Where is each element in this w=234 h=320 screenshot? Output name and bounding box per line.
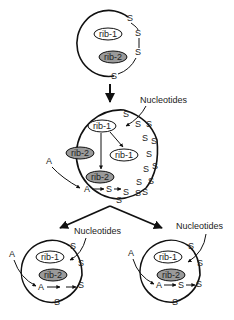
rib1-molecule: rib-1 xyxy=(94,28,122,40)
svg-text:S: S xyxy=(188,241,194,251)
svg-text:S: S xyxy=(146,119,152,129)
ribozyme-replication-diagram: S S S S rib-1 rib-2 Nucleotides S S S S … xyxy=(0,0,234,320)
svg-text:rib-1: rib-1 xyxy=(99,29,117,39)
growing-cell: Nucleotides S S S S S S S S S S S S S ri… xyxy=(46,95,188,205)
svg-text:S: S xyxy=(152,161,158,171)
split-arrow-left xyxy=(60,206,110,228)
svg-text:S: S xyxy=(197,258,203,268)
rib1-molecule: rib-1 xyxy=(36,251,64,263)
svg-text:S: S xyxy=(106,184,112,194)
svg-text:rib-2: rib-2 xyxy=(104,52,122,62)
s-molecule: S xyxy=(111,71,117,81)
svg-text:S: S xyxy=(142,187,148,197)
rib2-molecule: rib-2 xyxy=(39,269,67,281)
svg-text:rib-1: rib-1 xyxy=(93,121,111,131)
s-molecule: S xyxy=(127,13,133,23)
nucleotides-label: Nucleotides xyxy=(176,221,224,231)
svg-text:S: S xyxy=(172,297,178,307)
svg-text:A: A xyxy=(9,249,15,259)
svg-text:S: S xyxy=(135,188,141,198)
svg-text:rib-2: rib-2 xyxy=(71,148,89,158)
rib1-molecule: rib-1 xyxy=(88,120,116,132)
svg-text:S: S xyxy=(135,119,141,129)
rib2-molecule: rib-2 xyxy=(66,147,94,159)
rib2-copy-molecule: rib-2 xyxy=(86,171,114,183)
cell-membrane xyxy=(77,10,128,76)
initial-cell: S S S S rib-1 rib-2 xyxy=(77,10,141,81)
svg-text:rib-1: rib-1 xyxy=(115,150,133,160)
svg-text:S: S xyxy=(78,258,84,268)
s-molecule: S xyxy=(135,47,141,57)
daughter-cell-right: Nucleotides S S S S rib-1 rib-2 A A S xyxy=(128,221,224,307)
svg-text:rib-2: rib-2 xyxy=(162,270,180,280)
svg-text:rib-1: rib-1 xyxy=(159,252,177,262)
svg-text:S: S xyxy=(70,241,76,251)
svg-text:S: S xyxy=(123,187,129,197)
rib1-copy-molecule: rib-1 xyxy=(110,149,138,161)
a-molecule: A xyxy=(84,184,90,194)
nucleotides-label: Nucleotides xyxy=(74,226,122,236)
svg-text:A: A xyxy=(156,280,162,290)
svg-text:A: A xyxy=(128,248,134,258)
svg-text:S: S xyxy=(178,280,184,290)
svg-text:S: S xyxy=(146,149,152,159)
svg-text:S: S xyxy=(54,297,60,307)
copy-arrow-rib1 xyxy=(110,132,123,147)
svg-text:S: S xyxy=(142,133,148,143)
svg-text:S: S xyxy=(196,279,202,289)
svg-text:A: A xyxy=(38,282,44,292)
svg-text:S: S xyxy=(78,280,84,290)
svg-text:S: S xyxy=(151,136,157,146)
svg-text:rib-2: rib-2 xyxy=(44,270,62,280)
a-input-arrow xyxy=(52,167,80,188)
svg-text:S: S xyxy=(143,164,149,174)
daughter-cell-left: Nucleotides S S S S rib-1 rib-2 A A xyxy=(9,226,122,307)
svg-text:rib-2: rib-2 xyxy=(91,172,109,182)
a-label: A xyxy=(46,156,52,166)
nucleotides-label: Nucleotides xyxy=(140,95,188,105)
svg-text:S: S xyxy=(123,109,129,119)
rib1-molecule: rib-1 xyxy=(154,251,182,263)
svg-text:rib-1: rib-1 xyxy=(41,252,59,262)
svg-text:S: S xyxy=(136,177,142,187)
rib2-molecule: rib-2 xyxy=(99,51,127,63)
svg-text:S: S xyxy=(148,176,154,186)
split-arrow-right xyxy=(110,206,162,228)
svg-text:S: S xyxy=(116,195,122,205)
